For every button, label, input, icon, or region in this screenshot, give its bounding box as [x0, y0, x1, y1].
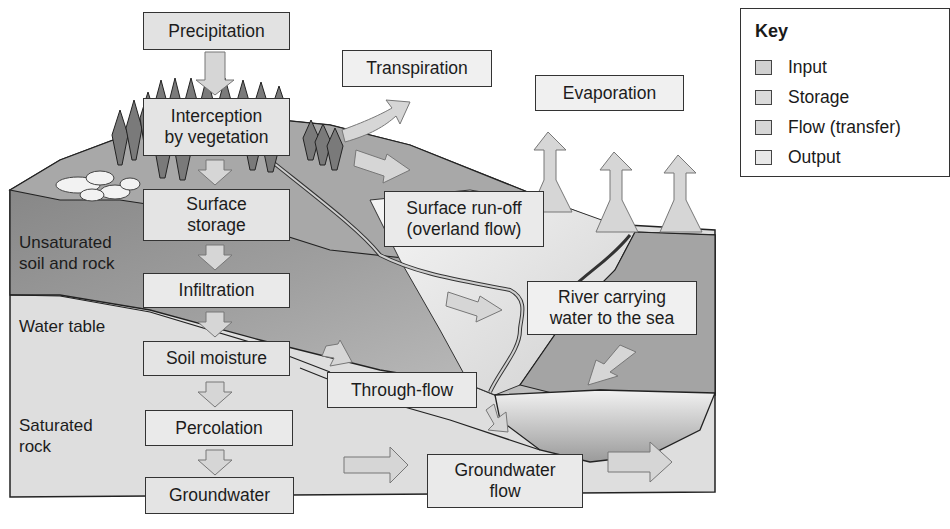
zone-label-unsaturated: Unsaturated soil and rock	[19, 232, 114, 274]
legend-key: Key Input Storage Flow (transfer) Output	[740, 8, 950, 177]
zone-label-water-table: Water table	[19, 316, 105, 337]
evaporation-box: Evaporation	[535, 75, 684, 111]
legend-title: Key	[755, 21, 949, 42]
legend-swatch-flow	[755, 120, 772, 135]
precipitation-box: Precipitation	[143, 12, 290, 50]
zone-label-saturated: Saturated rock	[19, 415, 93, 457]
legend-label: Input	[788, 57, 827, 78]
groundwater-box: Groundwater	[145, 477, 294, 514]
interception-box: Interception by vegetation	[143, 98, 290, 156]
legend-swatch-output	[755, 150, 772, 165]
river-box: River carrying water to the sea	[527, 281, 697, 335]
infiltration-box: Infiltration	[143, 273, 290, 308]
arrow-evaporation-2	[596, 152, 638, 232]
legend-item-input: Input	[755, 52, 949, 82]
legend-swatch-storage	[755, 90, 772, 105]
legend-label: Flow (transfer)	[788, 117, 901, 138]
legend-item-output: Output	[755, 142, 949, 172]
arrow-evaporation-3	[660, 155, 702, 232]
transpiration-box: Transpiration	[342, 50, 492, 87]
soil-moisture-box: Soil moisture	[143, 341, 290, 376]
legend-label: Output	[788, 147, 841, 168]
legend-label: Storage	[788, 87, 849, 108]
percolation-box: Percolation	[145, 410, 293, 446]
surface-runoff-box: Surface run-off (overland flow)	[384, 191, 544, 247]
through-flow-box: Through-flow	[327, 372, 477, 408]
arrow-transpiration	[342, 100, 410, 142]
groundwater-flow-box: Groundwater flow	[427, 454, 583, 508]
surface-storage-box: Surface storage	[143, 189, 290, 241]
legend-item-flow: Flow (transfer)	[755, 112, 949, 142]
legend-swatch-input	[755, 60, 772, 75]
legend-item-storage: Storage	[755, 82, 949, 112]
